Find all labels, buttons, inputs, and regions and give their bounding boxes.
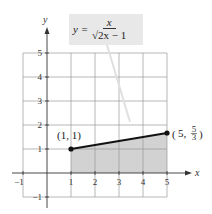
y-axis-arrow [45,27,50,34]
x-axis-label: x [194,167,200,178]
x-tick-label: 4 [141,177,146,187]
y-tick-label: 1 [38,144,43,154]
point-label-b-x: 5, [178,127,187,139]
x-tick-label: 1 [69,177,74,187]
y-axis-label: y [42,14,48,25]
point-label-b-open-paren: ( [172,128,176,141]
x-axis-arrow [185,171,192,176]
x-tick-label: 2 [93,177,98,187]
point-label-b-close-paren: ) [199,128,203,141]
x-tick-label: 5 [165,177,170,187]
formula-leader-line [107,45,130,122]
y-tick-label: −1 [32,192,42,202]
point-label-b-denominator: 3 [192,132,197,142]
y-tick-label: 2 [38,120,43,130]
x-tick-label: −1 [14,177,24,187]
y-tick-label: 4 [38,72,43,82]
y-tick-label: 5 [38,48,43,58]
point-label-a: (1, 1) [57,129,81,142]
x-tick-label: 3 [117,177,122,187]
chart: xy−112345−112345(1, 1)(5,53) [0,0,212,214]
data-point [164,130,169,135]
y-tick-label: 3 [38,96,43,106]
data-point [68,146,73,151]
